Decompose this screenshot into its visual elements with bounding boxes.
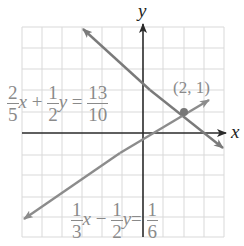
eq2-coef-b: 12 (111, 200, 123, 241)
x-axis-label: x (231, 121, 239, 143)
point-label: (2, 1) (173, 78, 210, 98)
y-axis-label: y (138, 0, 146, 22)
eq1-coef-a: 25 (7, 83, 19, 124)
equation-1-label: 25x + 12y = 1310 (7, 83, 108, 124)
eq2-coef-a: 13 (71, 200, 83, 241)
intersection-point (180, 108, 188, 116)
eq1-const: 1310 (87, 83, 108, 124)
equation-2-label: 13x − 12y= 16 (71, 200, 158, 241)
eq2-const: 16 (147, 200, 159, 241)
eq1-coef-b: 12 (47, 83, 59, 124)
